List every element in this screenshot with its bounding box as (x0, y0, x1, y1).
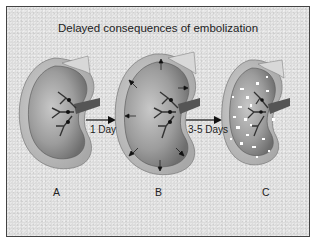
kidney-b (115, 52, 200, 175)
stage-label-a: A (53, 186, 60, 198)
kidney-a (19, 56, 100, 169)
arrow-1-day (86, 116, 116, 124)
arrow-label-1-day: 1 Day (90, 124, 116, 135)
kidney-c (222, 60, 290, 165)
arrow-label-3-5-days: 3-5 Days (188, 124, 228, 135)
stage-label-b: B (155, 186, 162, 198)
kidney-illustration (0, 0, 314, 243)
arrow-3-5-days (186, 116, 222, 124)
stage-label-c: C (262, 186, 270, 198)
